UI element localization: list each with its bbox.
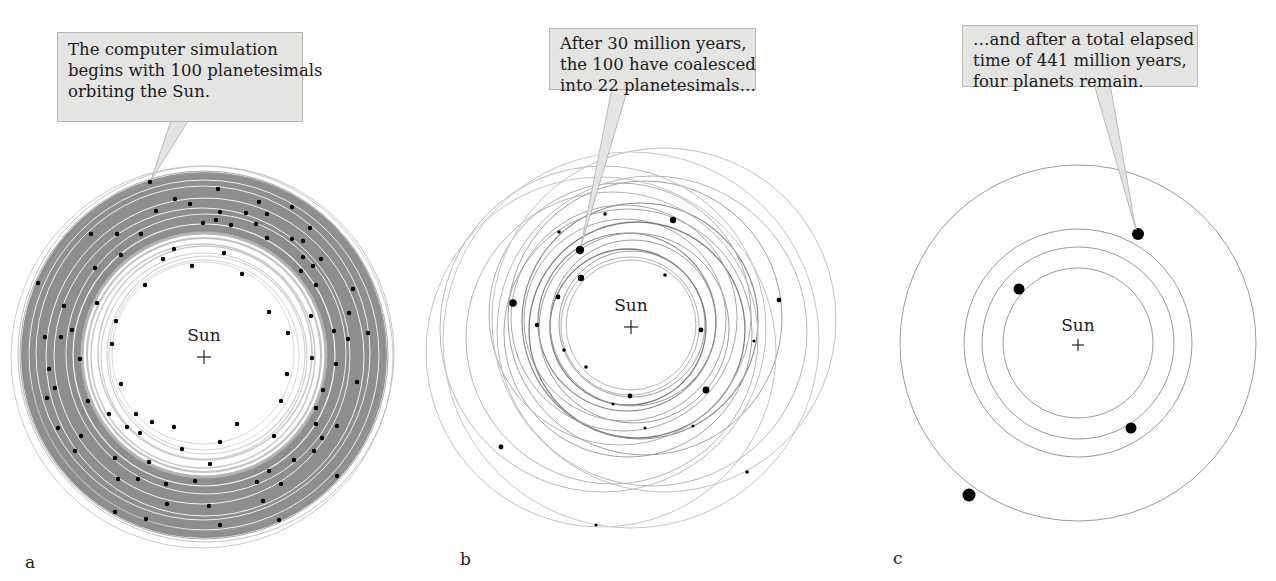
panel-a-sun-marker (197, 350, 211, 364)
panel-c-planets (963, 228, 1145, 502)
panel-b-sun-marker (624, 320, 638, 334)
panel-a-callout: The computer simulation begins with 100 … (57, 32, 303, 122)
panel-c-callout-line-1: …and after a total elapsed (973, 29, 1187, 50)
panel-c-label: c (893, 548, 903, 568)
panel-b-callout-line-3: into 22 planetesimals… (560, 75, 745, 96)
panel-b-label: b (460, 549, 471, 569)
panel-b-callout-line-2: the 100 have coalesced (560, 54, 745, 75)
panel-c-callout-pointer (1094, 84, 1136, 230)
panel-a-callout-line-3: orbiting the Sun. (68, 81, 292, 102)
panel-b-callout-line-1: After 30 million years, (560, 33, 745, 54)
panel-a-callout-line-2: begins with 100 planetesimals (68, 60, 292, 81)
panel-c-callout-line-2: time of 441 million years, (973, 50, 1187, 71)
panel-b-orbits (426, 148, 836, 528)
panel-c-callout-line-3: four planets remain. (973, 71, 1187, 92)
panel-a-label: a (25, 552, 35, 572)
panel-c-sun-label: Sun (1061, 315, 1095, 335)
panel-c-callout: …and after a total elapsed time of 441 m… (962, 25, 1198, 87)
panel-c-sun-marker (1072, 339, 1084, 351)
panel-a-callout-line-1: The computer simulation (68, 39, 292, 60)
panel-a-sun-label: Sun (187, 325, 221, 345)
panel-b-sun-label: Sun (614, 295, 648, 315)
panel-a-callout-pointer (151, 118, 190, 180)
panel-b-callout: After 30 million years, the 100 have coa… (549, 28, 756, 90)
